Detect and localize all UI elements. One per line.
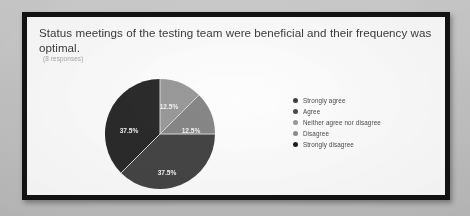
legend-item-disagree[interactable]: Disagree xyxy=(293,128,443,139)
legend-item-neither-agree-nor-disagree[interactable]: Neither agree nor disagree xyxy=(293,117,443,128)
legend-item-agree[interactable]: Agree xyxy=(293,106,443,117)
legend-swatch-icon xyxy=(293,120,298,125)
pie-label-top: 12.5% xyxy=(160,103,179,110)
legend-item-label: Neither agree nor disagree xyxy=(303,119,381,126)
legend-swatch-icon xyxy=(293,109,298,114)
chart-area: 12.5% 12.5% 37.5% 37.5% Strongly agree A… xyxy=(27,67,445,195)
legend-item-label: Disagree xyxy=(303,130,329,137)
legend-swatch-icon xyxy=(293,131,298,136)
chart-legend: Strongly agree Agree Neither agree nor d… xyxy=(293,95,443,150)
pie-label-left: 37.5% xyxy=(120,127,139,134)
pie-label-right: 12.5% xyxy=(182,127,201,134)
pie-label-bottom: 37.5% xyxy=(158,169,177,176)
legend-item-label: Agree xyxy=(303,108,320,115)
pie-chart: 12.5% 12.5% 37.5% 37.5% xyxy=(103,77,217,191)
legend-item-label: Strongly disagree xyxy=(303,141,354,148)
slide-frame: Status meetings of the testing team were… xyxy=(22,12,450,200)
legend-swatch-icon xyxy=(293,142,298,147)
legend-item-label: Strongly agree xyxy=(303,97,346,104)
pie-chart-svg: 12.5% 12.5% 37.5% 37.5% xyxy=(103,77,217,191)
page-title: Status meetings of the testing team were… xyxy=(39,25,435,55)
legend-item-strongly-disagree[interactable]: Strongly disagree xyxy=(293,139,443,150)
survey-result-card: Status meetings of the testing team were… xyxy=(27,17,445,195)
legend-item-strongly-agree[interactable]: Strongly agree xyxy=(293,95,443,106)
legend-swatch-icon xyxy=(293,98,298,103)
response-count-label: (8 responses) xyxy=(43,55,83,62)
